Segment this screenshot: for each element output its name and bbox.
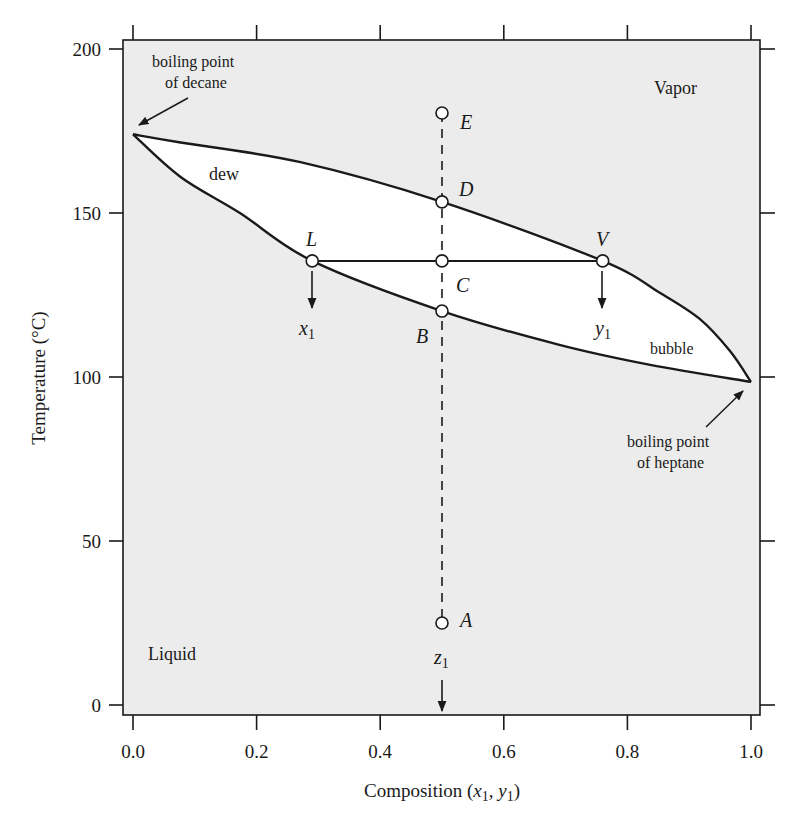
- y-axis-label: Temperature (°C): [28, 311, 50, 444]
- x-tick-label: 0.6: [492, 741, 516, 762]
- x-tick-label: 0.4: [368, 741, 392, 762]
- phase-diagram-chart: 0.00.20.40.60.81.0050100150200 E D C B A…: [0, 0, 799, 832]
- point-marker-C: [436, 255, 448, 267]
- liquid-region-label: Liquid: [148, 644, 196, 664]
- decane-annotation-line2: of decane: [165, 74, 227, 91]
- x-tick-label: 0.0: [121, 741, 145, 762]
- y-tick-label: 200: [73, 39, 102, 60]
- point-label-E: E: [459, 111, 472, 133]
- point-label-A: A: [458, 609, 473, 631]
- x-axis-label: Composition (x1, y1): [364, 780, 520, 804]
- x-tick-label: 0.2: [245, 741, 269, 762]
- point-marker-D: [436, 196, 448, 208]
- dew-curve-label: dew: [209, 164, 239, 184]
- point-label-D: D: [458, 178, 474, 200]
- heptane-annotation-line1: boiling point: [627, 433, 710, 451]
- point-label-L: L: [305, 228, 317, 250]
- vapor-region-label: Vapor: [654, 78, 697, 98]
- y-tick-label: 100: [73, 367, 102, 388]
- y-tick-label: 0: [92, 695, 102, 716]
- decane-annotation-line1: boiling point: [152, 53, 235, 71]
- point-marker-L: [306, 255, 318, 267]
- point-marker-A: [436, 617, 448, 629]
- x-tick-label: 0.8: [616, 741, 640, 762]
- point-marker-V: [597, 255, 609, 267]
- y-tick-label: 50: [82, 531, 101, 552]
- point-label-C: C: [456, 274, 470, 296]
- bubble-curve-label: bubble: [650, 340, 694, 357]
- point-marker-E: [436, 107, 448, 119]
- x-tick-label: 1.0: [739, 741, 763, 762]
- y-tick-label: 150: [73, 203, 102, 224]
- point-marker-B: [436, 305, 448, 317]
- point-label-B: B: [416, 325, 428, 347]
- heptane-annotation-line2: of heptane: [637, 454, 704, 472]
